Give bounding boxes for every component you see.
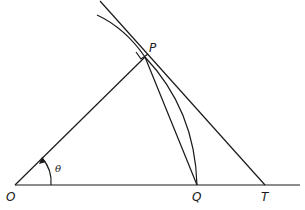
label-p: P (149, 41, 157, 55)
label-t: T (261, 190, 270, 204)
angle-label: θ (55, 163, 61, 174)
label-q: Q (192, 190, 201, 204)
geometry-diagram: θ O P Q T (0, 0, 305, 210)
chord-pq (145, 57, 197, 185)
tangent-line (100, 1, 265, 185)
curve (97, 15, 145, 57)
label-o: O (6, 190, 15, 204)
radius-op (15, 57, 145, 185)
